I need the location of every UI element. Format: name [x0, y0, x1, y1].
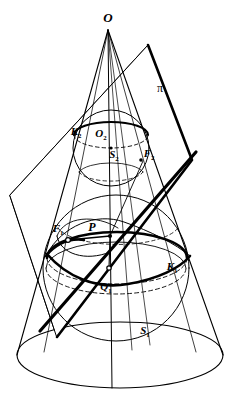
label-apex-o: O: [103, 10, 113, 25]
label-point-p: P: [88, 220, 96, 234]
label-circle-k2-sub: 2: [78, 132, 82, 139]
label-focus-f2-sub: 2: [151, 154, 155, 161]
marker-f1: [66, 238, 71, 243]
label-circle-k1: K1: [166, 260, 178, 274]
dandelin-sphere-figure: O π K2 O2 S2 F2 F1 P K1 Q1 S1: [0, 0, 245, 408]
label-circle-k1-sub: 1: [174, 267, 178, 274]
label-plane-pi: π: [157, 81, 163, 95]
label-center-o2-main: O: [95, 127, 103, 139]
marker-p: [108, 234, 112, 238]
label-point-q1-main: Q: [100, 280, 108, 292]
marker-q1: [107, 266, 111, 270]
label-center-o2-sub: 2: [103, 134, 107, 141]
marker-f2: [139, 158, 143, 162]
label-sphere-s1-sub: 1: [146, 331, 150, 338]
label-sphere-s2-sub: 2: [115, 155, 119, 162]
label-focus-f1-sub: 1: [60, 229, 64, 236]
label-point-q1-sub: 1: [108, 287, 112, 294]
geometry-diagram: O π K2 O2 S2 F2 F1 P K1 Q1 S1: [0, 0, 245, 408]
